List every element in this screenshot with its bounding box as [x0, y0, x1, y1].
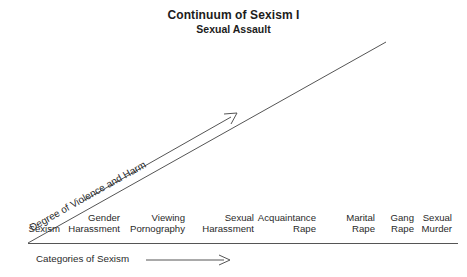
- diagonal-arrow-icon: [224, 113, 237, 124]
- category-label-line2: Murder: [0, 223, 452, 234]
- x-axis-label: Categories of Sexism: [36, 253, 129, 264]
- category-list: SexismGenderHarassmentViewingPornography…: [0, 212, 467, 244]
- category-label-line1: Sexual: [0, 212, 452, 223]
- diagram-canvas: Continuum of Sexism I Sexual Assault Deg…: [0, 0, 467, 277]
- category-column: SexualMurder: [0, 212, 452, 235]
